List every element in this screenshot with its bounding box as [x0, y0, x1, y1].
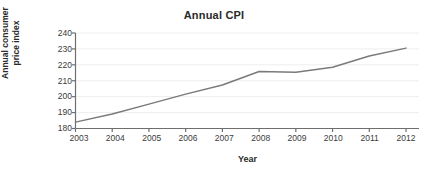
gridlines	[76, 33, 420, 113]
plot-area	[0, 0, 428, 173]
chart-container: Annual CPI Annual consumer price index Y…	[0, 0, 428, 173]
data-series-line	[76, 48, 407, 122]
